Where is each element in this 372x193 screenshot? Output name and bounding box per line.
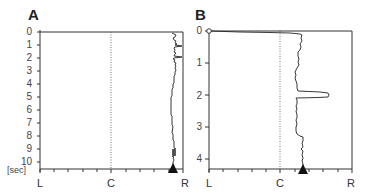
- panel-b-start-marker: [207, 29, 212, 34]
- panel-b-trace: [210, 31, 329, 167]
- panel-a-trace: [171, 33, 182, 167]
- panel-a-axes: [37, 30, 183, 173]
- panel-a-final-position-marker: [168, 163, 178, 173]
- chart-canvas: [0, 0, 372, 193]
- panel-b-axes: [205, 29, 352, 173]
